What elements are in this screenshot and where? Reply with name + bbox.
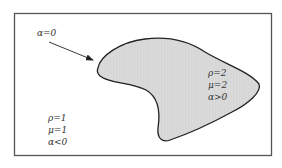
inside-rho-label: ρ=2	[207, 68, 227, 78]
outside-labels: ρ=1 μ=1 α<0	[47, 113, 68, 147]
diagram-canvas: α=0 ρ=2 μ=2 α>0 ρ=1 μ=1 α<0	[0, 0, 282, 168]
inside-mu-label: μ=2	[208, 80, 227, 90]
inside-alpha-label: α>0	[208, 92, 228, 102]
outside-alpha-label: α<0	[48, 137, 68, 147]
outside-rho-label: ρ=1	[47, 113, 67, 123]
boundary-label: α=0	[37, 28, 57, 38]
inside-labels: ρ=2 μ=2 α>0	[207, 68, 228, 102]
outside-mu-label: μ=1	[48, 125, 67, 135]
